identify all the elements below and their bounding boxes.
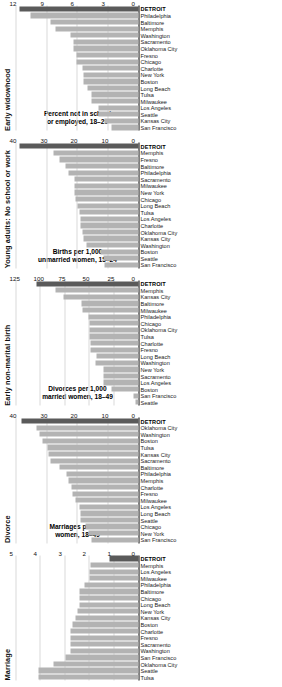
bar: [103, 255, 138, 260]
category-label-text: Tulsa: [140, 333, 153, 339]
category-label-text: Kansas City: [140, 117, 170, 123]
bar: [98, 105, 138, 110]
bar: [83, 72, 138, 77]
category-label-text: Charlotte: [140, 340, 163, 346]
category-label-text: Philadelphia: [140, 313, 170, 319]
bar: [98, 111, 138, 116]
rotated-figure-wrapper: Marriage012345Marriages per 100 women, 1…: [0, 0, 282, 687]
bar: [70, 635, 138, 640]
category-label: Sacramento: [139, 373, 217, 378]
category-label: Sacramento: [139, 641, 217, 646]
category-label: New York: [139, 366, 217, 371]
category-label: Milwaukee: [139, 98, 217, 103]
bar: [48, 451, 138, 456]
category-label: Boston: [139, 386, 217, 391]
plot-area: 0255075100125Births per 1,000 unmarried …: [16, 280, 139, 405]
category-label-text: Chicago: [140, 320, 161, 326]
category-label-text: Fresno: [140, 634, 157, 640]
bar: [55, 287, 138, 292]
axis-tick-label: 2: [82, 549, 85, 556]
category-label: Philadelphia: [139, 12, 217, 17]
bar: [90, 340, 138, 345]
axis-tick-label: 5: [9, 549, 12, 556]
axis-tick-label: 0: [131, 0, 134, 6]
bar: [72, 491, 138, 496]
bar: [74, 176, 138, 181]
category-label: Long Beach: [139, 602, 217, 607]
category-label: Los Angeles: [139, 504, 217, 509]
bar: [79, 588, 138, 593]
category-label: Chicago: [139, 196, 217, 201]
category-label-text: San Francisco: [140, 392, 176, 398]
category-label-text: Fresno: [140, 156, 157, 162]
category-label-text: Seattle: [140, 255, 157, 261]
category-label-text: Baltimore: [140, 588, 164, 594]
axis-tick-label: 0: [131, 274, 134, 281]
axis-tick-label: 9: [40, 0, 43, 6]
bar: [53, 661, 138, 666]
category-label: Memphis: [139, 562, 217, 567]
axis-tick-label: 20: [70, 137, 77, 144]
bar: [63, 294, 138, 299]
panel-title: Divorce: [0, 413, 14, 548]
category-label: Long Beach: [139, 85, 217, 90]
category-label: Baltimore: [139, 163, 217, 168]
category-label-text: San Francisco: [140, 261, 176, 267]
bar: [86, 242, 138, 247]
category-label: San Francisco: [139, 537, 217, 542]
bar: [79, 504, 138, 509]
category-label: Baltimore: [139, 464, 217, 469]
bar: [83, 78, 138, 83]
category-label-text: Washington: [140, 647, 169, 653]
bar: [36, 425, 138, 430]
category-label: San Francisco: [139, 654, 217, 659]
category-label-text: Memphis: [140, 562, 163, 568]
category-label-text: Seattle: [140, 517, 157, 523]
category-label-text: Seattle: [140, 111, 157, 117]
category-label: Seattle: [139, 668, 217, 673]
bar: [89, 575, 138, 580]
axis-tick-label: 10: [101, 137, 108, 144]
category-label: Philadelphia: [139, 582, 217, 587]
bar: [133, 393, 138, 398]
bar: [68, 170, 138, 175]
category-label: Boston: [139, 438, 217, 443]
bar: [59, 464, 138, 469]
category-label-text: DETROIT: [140, 555, 165, 561]
bar: [38, 674, 138, 679]
category-label: Milwaukee: [139, 575, 217, 580]
category-label: Long Beach: [139, 510, 217, 515]
panel-title: Young adults: No school or work: [0, 138, 14, 273]
category-label: New York: [139, 530, 217, 535]
panel-title: Marriage: [0, 551, 14, 686]
category-label-text: San Francisco: [140, 536, 176, 542]
category-label: Oklahoma City: [139, 661, 217, 666]
category-label: Philadelphia: [139, 170, 217, 175]
category-label-text: Seattle: [140, 667, 157, 673]
category-label-text: Washington: [140, 242, 169, 248]
category-label: Fresno: [139, 347, 217, 352]
chart-panel-1: Divorce010203040Divorces per 1,000 marri…: [0, 412, 282, 549]
category-label-text: DETROIT: [140, 418, 165, 424]
bar: [85, 524, 138, 529]
category-label-text: Philadelphia: [140, 470, 170, 476]
category-label: Tulsa: [139, 209, 217, 214]
axis-tick-label: 30: [40, 412, 47, 419]
bar: [73, 39, 138, 44]
bar: [77, 608, 138, 613]
category-label: Seattle: [139, 517, 217, 522]
axis-tick-label: 50: [82, 274, 89, 281]
category-label: Chicago: [139, 595, 217, 600]
category-label-text: Memphis: [140, 477, 163, 483]
axis-tick-label: 30: [40, 137, 47, 144]
category-labels: SeattleSan FranciscoBostonLos AngelesSac…: [139, 280, 217, 405]
category-label-text: Memphis: [140, 25, 163, 31]
bar: [96, 353, 138, 358]
category-label: Boston: [139, 621, 217, 626]
category-label: Charlotte: [139, 628, 217, 633]
category-label-text: DETROIT: [140, 5, 165, 11]
bar: [77, 203, 138, 208]
category-label-text: Washington: [140, 32, 169, 38]
category-label: Washington: [139, 431, 217, 436]
category-label: Tulsa: [139, 333, 217, 338]
